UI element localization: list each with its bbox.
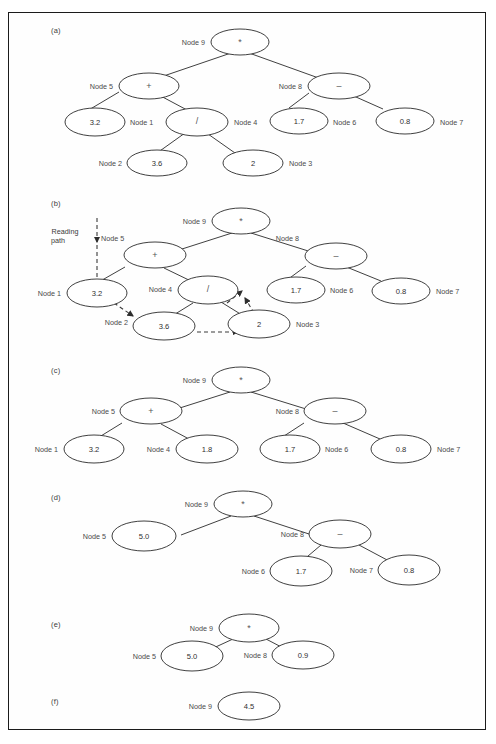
node9-label: Node 9 xyxy=(185,500,208,509)
node5-value: 5.0 xyxy=(139,532,150,541)
node5-value: + xyxy=(146,81,151,91)
node7-value: 0.8 xyxy=(400,117,411,126)
edge-node8-node7 xyxy=(343,423,380,439)
panel-c-tree: * Node 9 + Node 5 – Node 8 3.2 Node 1 1.… xyxy=(9,351,486,479)
node2-value: 3.6 xyxy=(159,322,170,331)
node8-label: Node 8 xyxy=(281,530,304,539)
edge-node8-node7 xyxy=(359,545,389,561)
node8-label: Node 8 xyxy=(276,407,299,416)
node9-value: * xyxy=(241,499,245,509)
edge-node8-node6 xyxy=(289,93,309,108)
node9-label: Node 9 xyxy=(190,624,213,633)
node2-label: Node 2 xyxy=(99,159,122,168)
node5-label: Node 5 xyxy=(101,234,124,243)
node6-value: 1.7 xyxy=(291,286,302,295)
panel-b: (b) Reading path xyxy=(9,185,486,347)
node6-label: Node 6 xyxy=(330,286,353,295)
node6-value: 1.7 xyxy=(296,567,307,576)
node6-value: 1.7 xyxy=(285,445,296,454)
node8-label: Node 8 xyxy=(279,82,302,91)
node9-label: Node 9 xyxy=(183,217,206,226)
edge-node5-node4 xyxy=(161,424,189,439)
panel-f: (f) 4.5 Node 9 xyxy=(9,685,486,730)
node1-label: Node 1 xyxy=(38,289,61,298)
edge-node8-node7 xyxy=(344,266,381,281)
node5-value: + xyxy=(148,406,153,416)
node5-value: 5.0 xyxy=(187,652,198,661)
node8-label: Node 8 xyxy=(276,234,299,243)
node6-label: Node 6 xyxy=(325,445,348,454)
node1-value: 3.2 xyxy=(92,289,103,298)
reading-path-label-line1: Reading xyxy=(52,227,79,236)
node5-value: + xyxy=(152,250,157,260)
node4-label: Node 4 xyxy=(147,445,170,454)
node7-label: Node 7 xyxy=(350,566,373,575)
panel-d-tree: * Node 9 5.0 Node 5 – Node 8 1.7 Node 6 … xyxy=(9,479,486,607)
node3-label: Node 3 xyxy=(296,320,319,329)
node9-label: Node 9 xyxy=(183,376,206,385)
node8-value: – xyxy=(332,406,337,416)
node9-label: Node 9 xyxy=(189,702,212,711)
node9-value: * xyxy=(247,623,251,633)
node8-value: – xyxy=(333,251,338,261)
edge-node4-node3 xyxy=(208,134,235,153)
edge-node9-node5 xyxy=(181,516,231,535)
reading-path-node1-to-node2 xyxy=(114,303,133,316)
node3-value: 2 xyxy=(251,159,255,168)
panel-d: (d) * Node 9 5.0 Node 5 – Node 8 1.7 Nod… xyxy=(9,479,486,607)
edge-node9-node8 xyxy=(249,53,327,81)
panel-c: (c) * Node 9 + Node 5 – Node 8 3.2 Node … xyxy=(9,351,486,479)
node4-value: 1.8 xyxy=(202,445,213,454)
node5-label: Node 5 xyxy=(90,82,113,91)
node8-value: – xyxy=(336,81,341,91)
node5-label: Node 5 xyxy=(133,652,156,661)
node2-value: 3.6 xyxy=(152,159,163,168)
node1-label: Node 1 xyxy=(130,118,153,127)
node9-value: * xyxy=(239,216,243,226)
node7-value: 0.8 xyxy=(396,445,407,454)
figure-page: (a) * Node 9 + Node 5 – Node 8 xyxy=(8,12,486,730)
node8-label: Node 8 xyxy=(244,651,267,660)
panel-e-tree: * Node 9 5.0 Node 5 0.9 Node 8 xyxy=(9,607,486,685)
node7-value: 0.8 xyxy=(404,566,415,575)
node9-label: Node 9 xyxy=(182,38,205,47)
node6-label: Node 6 xyxy=(242,567,265,576)
node5-label: Node 5 xyxy=(92,407,115,416)
node3-value: 2 xyxy=(257,320,261,329)
panel-a-tree: * Node 9 + Node 5 – Node 8 3.2 Node 1 / … xyxy=(9,13,486,183)
node6-value: 1.7 xyxy=(294,117,305,126)
node7-label: Node 7 xyxy=(440,118,463,127)
reading-path-label-line2: path xyxy=(51,236,65,245)
node5-label: Node 5 xyxy=(83,532,106,541)
panel-b-tree: Reading path * Node 9 + Node 5 – Node 8 … xyxy=(9,185,486,347)
node8-value: – xyxy=(337,529,342,539)
node1-value: 3.2 xyxy=(89,445,100,454)
node4-label: Node 4 xyxy=(234,118,257,127)
node2-label: Node 2 xyxy=(105,318,128,327)
node8-value: 0.9 xyxy=(298,651,309,660)
node7-value: 0.8 xyxy=(396,287,407,296)
node7-label: Node 7 xyxy=(437,445,460,454)
node7-label: Node 7 xyxy=(436,287,459,296)
panel-a: (a) * Node 9 + Node 5 – Node 8 xyxy=(9,13,486,183)
node4-label: Node 4 xyxy=(149,285,172,294)
node9-value: 4.5 xyxy=(244,702,255,711)
node9-value: * xyxy=(239,375,243,385)
node6-label: Node 6 xyxy=(333,118,356,127)
panel-e: (e) * Node 9 5.0 Node 5 0.9 Node 8 xyxy=(9,607,486,685)
node1-label: Node 1 xyxy=(35,445,58,454)
node1-value: 3.2 xyxy=(90,118,101,127)
node9-value: * xyxy=(238,37,242,47)
panel-f-tree: 4.5 Node 9 xyxy=(9,685,486,730)
node3-label: Node 3 xyxy=(289,159,312,168)
